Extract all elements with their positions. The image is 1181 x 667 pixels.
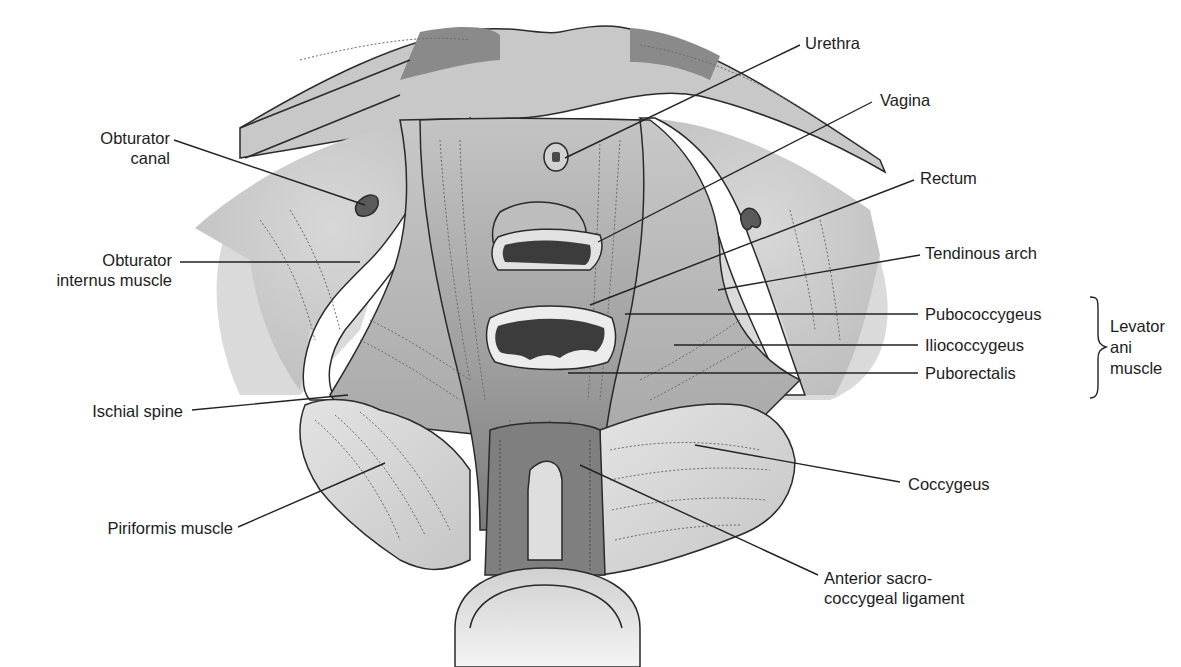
label-obturator-internus: Obturator internus muscle [20,250,172,290]
label-line: internus muscle [20,270,172,290]
label-puborectalis: Puborectalis [925,363,1016,383]
pelvic-floor-illustration [0,0,1181,667]
label-tendinous-arch: Tendinous arch [925,243,1037,263]
label-urethra: Urethra [805,33,860,53]
label-line: canal [60,148,170,168]
label-line: Obturator [20,250,172,270]
label-iliococcygeus: Iliococcygeus [925,335,1024,355]
label-line: Anterior sacro- [824,568,964,588]
sacrum [455,568,640,667]
label-pubococcygeus: Pubococcygeus [925,304,1042,324]
rectum-structure [487,306,616,370]
right-coccygeus [600,404,795,575]
label-line: Obturator [60,128,170,148]
label-line: coccygeal ligament [824,588,964,608]
urethra-structure [544,143,568,171]
label-vagina: Vagina [880,90,930,110]
label-levator-ani-muscle: Levator ani muscle [1110,316,1165,379]
label-ischial-spine: Ischial spine [40,401,183,421]
label-piriformis-muscle: Piriformis muscle [40,518,233,538]
label-line: muscle [1110,358,1165,379]
label-line: ani [1110,337,1165,358]
label-rectum: Rectum [920,168,977,188]
label-coccygeus: Coccygeus [908,474,990,494]
label-obturator-canal: Obturator canal [60,128,170,168]
sacrococcygeal-column [485,423,605,576]
label-line: Levator [1110,316,1165,337]
levator-brace [1090,297,1106,398]
label-anterior-sacrococcygeal-ligament: Anterior sacro- coccygeal ligament [824,568,964,608]
